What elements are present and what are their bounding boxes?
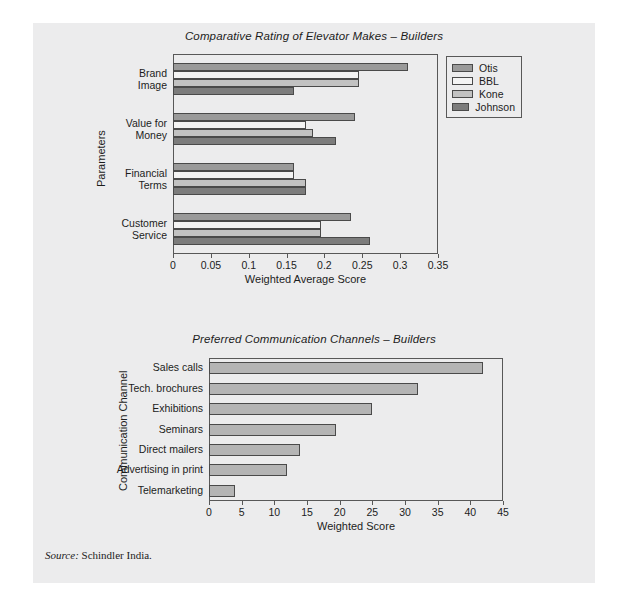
x-tick-label: 0.05 [201, 259, 221, 271]
category-label: Tech. brochures [73, 382, 203, 394]
category-label: Exhibitions [73, 402, 203, 414]
bar [173, 163, 294, 171]
bar [173, 229, 321, 237]
bar [173, 121, 306, 129]
x-tick-mark [307, 501, 308, 505]
bar [209, 424, 336, 436]
category-label: Telemarketing [73, 484, 203, 496]
x-tick-label: 20 [334, 506, 346, 518]
legend-swatch-icon [452, 64, 473, 72]
category-label: BrandImage [97, 67, 167, 91]
y-axis-title: Parameters [95, 130, 107, 187]
category-label: Sales calls [73, 361, 203, 373]
category-label: Value forMoney [97, 117, 167, 141]
category-label: Direct mailers [73, 443, 203, 455]
x-tick-mark [405, 501, 406, 505]
x-tick-mark [211, 254, 212, 258]
x-tick-mark [324, 254, 325, 258]
x-tick-mark [209, 501, 210, 505]
chart-title: Preferred Communication Channels – Build… [33, 333, 595, 345]
x-tick-mark [400, 254, 401, 258]
x-tick-label: 0.15 [276, 259, 296, 271]
chart-comparative-rating: Comparative Rating of Elevator Makes – B… [33, 23, 595, 293]
category-label: Advertising in print [73, 463, 203, 475]
chart-title: Comparative Rating of Elevator Makes – B… [33, 30, 595, 42]
bar [209, 403, 372, 415]
x-tick-label: 25 [366, 506, 378, 518]
bar [173, 79, 359, 87]
x-tick-mark [438, 254, 439, 258]
legend-swatch-icon [452, 90, 473, 98]
x-tick-label: 5 [239, 506, 245, 518]
x-tick-label: 0 [170, 259, 176, 271]
bar [209, 464, 287, 476]
x-tick-label: 0.1 [241, 259, 256, 271]
source-label: Source: [45, 549, 79, 561]
x-tick-mark [362, 254, 363, 258]
category-label: Seminars [73, 423, 203, 435]
legend-label: Kone [479, 88, 504, 100]
x-tick-label: 0.2 [317, 259, 332, 271]
legend: OtisBBLKoneJohnson [446, 56, 522, 118]
legend-swatch-icon [452, 77, 473, 85]
legend-label: BBL [479, 75, 499, 87]
legend-label: Johnson [475, 101, 515, 113]
source-text: Schindler India. [82, 549, 152, 561]
figure-page: Comparative Rating of Elevator Makes – B… [33, 23, 595, 583]
x-tick-mark [173, 254, 174, 258]
y-axis-title: Communication Channel [117, 371, 129, 491]
source-note: Source: Schindler India. [45, 549, 152, 561]
legend-item[interactable]: Johnson [452, 100, 515, 113]
bar [209, 444, 300, 456]
x-tick-mark [287, 254, 288, 258]
x-tick-label: 10 [268, 506, 280, 518]
x-tick-label: 0.3 [393, 259, 408, 271]
x-tick-label: 0.35 [428, 259, 448, 271]
x-tick-mark [242, 501, 243, 505]
bar [173, 63, 408, 71]
bar [173, 221, 321, 229]
x-tick-label: 15 [301, 506, 313, 518]
bar [173, 71, 359, 79]
x-axis-title: Weighted Score [209, 520, 503, 532]
category-label: FinancialTerms [97, 167, 167, 191]
bar [173, 137, 336, 145]
bar [173, 171, 294, 179]
x-tick-mark [274, 501, 275, 505]
legend-item[interactable]: Otis [452, 61, 515, 74]
bar [173, 187, 306, 195]
chart-preferred-channels: Preferred Communication Channels – Build… [33, 323, 595, 563]
x-tick-mark [249, 254, 250, 258]
x-axis-title: Weighted Average Score [173, 273, 438, 285]
bar [209, 383, 418, 395]
bar [209, 485, 235, 497]
bar [173, 113, 355, 121]
x-tick-label: 40 [464, 506, 476, 518]
bar [173, 129, 313, 137]
x-tick-label: 35 [432, 506, 444, 518]
legend-swatch-icon [452, 103, 469, 111]
bar [173, 87, 294, 95]
legend-item[interactable]: BBL [452, 74, 515, 87]
bar [173, 179, 306, 187]
category-label: CustomerService [97, 217, 167, 241]
bar [173, 237, 370, 245]
x-tick-mark [340, 501, 341, 505]
legend-label: Otis [479, 62, 498, 74]
x-tick-mark [438, 501, 439, 505]
x-tick-label: 0.25 [352, 259, 372, 271]
x-tick-label: 30 [399, 506, 411, 518]
bar [173, 213, 351, 221]
x-tick-mark [372, 501, 373, 505]
legend-item[interactable]: Kone [452, 87, 515, 100]
x-tick-mark [470, 501, 471, 505]
x-tick-label: 0 [206, 506, 212, 518]
bar [209, 362, 483, 374]
x-tick-label: 45 [497, 506, 509, 518]
x-tick-mark [503, 501, 504, 505]
